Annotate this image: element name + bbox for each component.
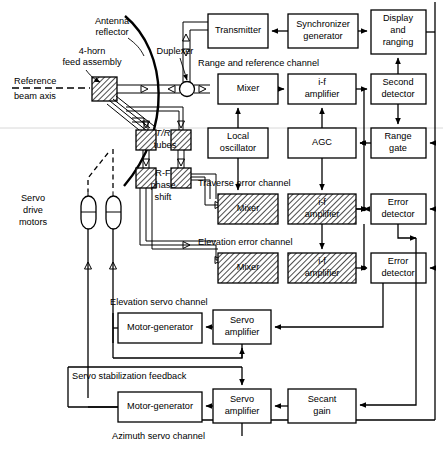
label-servo-motors-3: motors [19, 217, 47, 227]
label-reference-axis-2: beam axis [14, 91, 56, 101]
label-phase-shift-2: phase [150, 180, 175, 190]
label-motor-gen-elev: Motor-generator [127, 322, 193, 332]
waveguide-arrow-right [168, 86, 175, 93]
junction-dot-364-268 [362, 266, 367, 271]
block-rectangles [118, 10, 426, 423]
feed-assembly-block [92, 77, 117, 101]
label-servo-amp-azim-1: Servo [230, 394, 254, 404]
label-if-elevation-2: amplifier [305, 268, 340, 278]
label-mixer-elevation: Mixer [237, 262, 259, 272]
label-local-oscillator-2: oscillator [220, 143, 256, 153]
label-servo-motors-2: drive [23, 205, 43, 215]
label-motor-gen-azim: Motor-generator [127, 401, 193, 411]
label-servo-motors-1: Servo [21, 193, 45, 203]
conn-err-elev-to-servo-amp [275, 283, 383, 327]
label-antenna-reflector-2: reflector [95, 27, 128, 37]
waveguide-arrow-left [141, 86, 148, 93]
label-feed-assembly-2: feed assembly [62, 57, 122, 67]
label-error-detector-traverse-2: detector [381, 209, 414, 219]
antenna-reflector-arc [124, 16, 159, 186]
label-if-traverse-1: i-f [318, 197, 326, 207]
label-error-detector-elevation-2: detector [381, 268, 414, 278]
label-agc: AGC [312, 137, 332, 147]
label-channel-elevation-servo: Elevation servo channel [110, 297, 208, 307]
junction-dot-364-143 [362, 141, 367, 146]
label-servo-amp-elev-2: amplifier [225, 327, 260, 337]
label-display-1: Display [383, 13, 414, 23]
label-range-gate-2: gate [389, 143, 407, 153]
label-channel-azimuth-servo: Azimuth servo channel [112, 431, 205, 441]
label-secant-gain-1: Secant [308, 394, 337, 404]
label-antenna-reflector-1: Antenna [95, 16, 130, 26]
label-range-gate-1: Range [384, 131, 411, 141]
label-transmitter: Transmitter [215, 25, 261, 35]
label-if-range-1: i-f [318, 77, 326, 87]
label-synchronizer-1: Synchronizer [296, 19, 350, 29]
label-if-range-2: amplifier [305, 89, 340, 99]
diagram-canvas: Antenna reflector 4-horn feed assembly D… [0, 0, 443, 450]
label-if-elevation-1: i-f [318, 256, 326, 266]
label-channel-traverse-error: Traverse error channel [198, 178, 291, 188]
label-display-2: and [390, 25, 405, 35]
label-tr-tubes-1: T/R [156, 128, 171, 138]
tr-right-arrow2 [178, 159, 185, 166]
label-servo-stabilization-feedback: Servo stabilization feedback [72, 371, 187, 381]
conn-err-traverse-out [398, 224, 416, 238]
label-channel-elevation-error: Elevation error channel [198, 237, 292, 247]
label-second-detector-2: detector [381, 89, 414, 99]
label-mixer-traverse: Mixer [237, 203, 259, 213]
label-mixer-range: Mixer [237, 83, 259, 93]
label-local-oscillator-1: Local [227, 131, 249, 141]
radar-block-diagram: Antenna reflector 4-horn feed assembly D… [0, 0, 443, 450]
leader-antenna-reflector [128, 38, 144, 56]
label-reference-axis-1: Reference [14, 76, 56, 86]
label-error-detector-traverse-1: Error [388, 197, 408, 207]
label-servo-amp-azim-2: amplifier [225, 406, 260, 416]
servo-link-left [88, 153, 108, 192]
conn-stabilization-feedback-elev [113, 344, 242, 358]
label-duplexer: Duplexer [157, 46, 194, 56]
label-synchronizer-2: generator [303, 31, 342, 41]
duplexer-out-arrow [199, 86, 206, 93]
label-phase-shift-1: R-F [155, 168, 171, 178]
label-feed-assembly-1: 4-horn [79, 46, 106, 56]
label-servo-amp-elev-1: Servo [230, 315, 254, 325]
tr-left-arrow2 [143, 159, 150, 166]
label-secant-gain-2: gain [313, 406, 330, 416]
label-error-detector-elevation-1: Error [388, 256, 408, 266]
duplexer-circle [180, 82, 195, 97]
label-display-3: ranging [383, 37, 414, 47]
duplexer-tx-arrow-down [183, 34, 190, 41]
label-channel-range-reference: Range and reference channel [198, 58, 319, 68]
label-second-detector-1: Second [382, 77, 413, 87]
label-if-traverse-2: amplifier [305, 209, 340, 219]
label-tr-tubes-2: tubes [154, 140, 177, 150]
label-phase-shift-3: shift [155, 192, 172, 202]
